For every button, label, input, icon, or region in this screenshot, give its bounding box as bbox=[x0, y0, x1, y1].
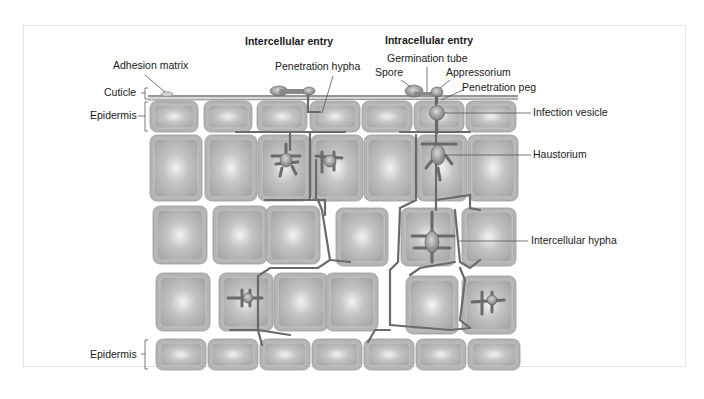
callout-germination-tube: Germination tube bbox=[387, 52, 468, 64]
plant-cell bbox=[154, 139, 198, 197]
plant-cell bbox=[368, 343, 410, 366]
bracket-epidermis-bottom bbox=[141, 340, 148, 369]
callout-infection-vesicle: Infection vesicle bbox=[533, 106, 608, 118]
plant-cell bbox=[410, 280, 454, 330]
plant-cell bbox=[420, 343, 462, 366]
label-epidermis-top: Epidermis bbox=[90, 109, 137, 121]
plant-cell bbox=[160, 277, 206, 327]
callout-appressorium: Appressorium bbox=[446, 66, 511, 78]
plant-cell bbox=[264, 343, 306, 366]
plant-cell bbox=[212, 343, 254, 366]
plant-cell bbox=[157, 210, 203, 260]
bracket-epidermis-top bbox=[138, 102, 148, 131]
plant-cell bbox=[472, 343, 516, 366]
plant-cell bbox=[154, 105, 194, 128]
callout-penetration-peg: Penetration peg bbox=[462, 81, 536, 93]
callout-spore: Spore bbox=[375, 66, 403, 78]
heading-intracellular-entry: Intracellular entry bbox=[385, 34, 473, 46]
plant-cell bbox=[472, 139, 514, 197]
plant-cell bbox=[217, 210, 263, 260]
plant-cell bbox=[270, 210, 316, 260]
plant-cell bbox=[160, 343, 202, 366]
spore bbox=[405, 85, 423, 97]
plant-cell bbox=[466, 280, 512, 330]
plant-cell bbox=[316, 343, 358, 366]
plant-cell bbox=[366, 105, 408, 128]
appressorium bbox=[431, 87, 443, 97]
plant-cell bbox=[368, 139, 412, 197]
label-epidermis-bottom: Epidermis bbox=[90, 348, 137, 360]
infection-vesicle bbox=[430, 106, 445, 121]
adhesion-matrix-blob bbox=[161, 92, 173, 97]
plant-cell bbox=[208, 105, 248, 128]
plant-cell bbox=[262, 139, 306, 197]
plant-cell bbox=[470, 105, 512, 128]
callout-intercellular-hypha: Intercellular hypha bbox=[531, 234, 617, 246]
callout-adhesion-matrix: Adhesion matrix bbox=[113, 59, 189, 71]
plant-cell bbox=[278, 277, 324, 327]
callout-haustorium: Haustorium bbox=[533, 148, 587, 160]
plant-infection-diagram: Intercellular entry Intracellular entry … bbox=[0, 0, 704, 399]
plant-cell bbox=[466, 212, 512, 262]
bracket-cuticle bbox=[141, 88, 148, 99]
plant-cell bbox=[340, 212, 384, 262]
plant-cell bbox=[209, 139, 253, 197]
label-cuticle: Cuticle bbox=[104, 86, 136, 98]
heading-intercellular-entry: Intercellular entry bbox=[245, 35, 333, 47]
callout-penetration-hypha: Penetration hypha bbox=[275, 60, 360, 72]
intercellular-spore bbox=[270, 86, 315, 96]
plant-cell bbox=[330, 277, 374, 327]
plant-cell bbox=[314, 105, 356, 128]
plant-cell bbox=[261, 105, 303, 128]
